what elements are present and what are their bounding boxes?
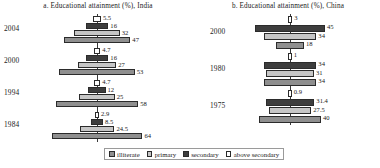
bar-value-label: 45 — [327, 24, 334, 31]
bar-value-label: 16 — [110, 23, 117, 30]
bar-primary — [79, 94, 115, 100]
bar-illiterate — [64, 37, 131, 43]
panel-india-groups: 20045.516324720004.716275319944.71225581… — [0, 14, 196, 142]
chart-panels: a. Educational attainment (%), India 200… — [0, 0, 380, 145]
bar-value-label: 0.9 — [294, 89, 302, 96]
bar-value-label: 1 — [294, 52, 297, 59]
bar-row: 1 — [196, 53, 380, 60]
bar-row: 12 — [0, 87, 196, 93]
legend-item-secondary: secondary — [183, 151, 219, 158]
bar-illiterate — [56, 101, 138, 107]
panel-india: a. Educational attainment (%), India 200… — [0, 0, 196, 145]
bar-row: 34 — [196, 62, 380, 69]
bar-row: 58 — [0, 101, 196, 107]
bar-value-label: 31 — [316, 70, 323, 77]
bar-illiterate — [59, 69, 134, 75]
bar-row: 32 — [0, 30, 196, 36]
bar-row: 16 — [0, 23, 196, 29]
plot-area: 4.7122558 — [0, 78, 196, 110]
legend-item-illiterate: illiterate — [109, 151, 140, 158]
bar-illiterate — [264, 79, 317, 86]
plot-area: 0.931.427.540 — [196, 88, 380, 125]
bar-value-label: 16 — [110, 55, 117, 62]
bar-group-china-1980: 19801343134 — [196, 51, 380, 88]
bar-row: 34 — [196, 79, 380, 86]
bar-row: 0.9 — [196, 90, 380, 97]
bars: 1343134 — [196, 53, 380, 87]
bar-secondary — [88, 87, 105, 93]
bar-group-india-2004: 20045.5163247 — [0, 14, 196, 46]
bar-group-china-1975: 19750.931.427.540 — [196, 88, 380, 125]
chart-legend: illiterateprimarysecondaryabove secondar… — [104, 148, 284, 160]
bar-row: 18 — [196, 42, 380, 49]
bar-primary — [264, 33, 317, 40]
bar-row: 53 — [0, 69, 196, 75]
bar-row: 4.7 — [0, 48, 196, 54]
legend-swatch-illiterate — [109, 151, 115, 157]
legend-label: secondary — [191, 151, 219, 158]
bar-row: 3 — [196, 16, 380, 23]
bar-secondary — [255, 25, 325, 32]
bar-above — [288, 16, 293, 23]
bar-group-india-1994: 19944.7122558 — [0, 78, 196, 110]
bar-secondary — [266, 99, 315, 106]
bar-value-label: 27 — [118, 62, 125, 69]
bars: 5.5163247 — [0, 16, 196, 44]
bar-value-label: 8.5 — [105, 119, 113, 126]
bar-above — [94, 48, 101, 54]
bar-primary — [78, 62, 116, 68]
plot-area: 1343134 — [196, 51, 380, 88]
bar-value-label: 34 — [318, 78, 325, 85]
bar-illiterate — [259, 116, 321, 123]
bar-row: 34 — [196, 33, 380, 40]
bar-row: 24.5 — [0, 126, 196, 132]
bar-above — [94, 80, 101, 86]
legend-label: illiterate — [117, 151, 140, 158]
bar-row: 31.4 — [196, 99, 380, 106]
bar-row: 27 — [0, 62, 196, 68]
bar-above — [288, 53, 292, 60]
bar-row: 45 — [196, 25, 380, 32]
bar-row: 27.5 — [196, 107, 380, 114]
bar-value-label: 3 — [294, 15, 297, 22]
plot-area: 5.5163247 — [0, 14, 196, 46]
plot-area: 3453418 — [196, 14, 380, 51]
plot-area: 4.7162753 — [0, 46, 196, 78]
bar-primary — [269, 107, 312, 114]
bar-group-india-1984: 19842.98.524.564 — [0, 110, 196, 142]
bar-value-label: 32 — [122, 30, 129, 37]
bar-value-label: 12 — [108, 87, 115, 94]
bar-row: 8.5 — [0, 119, 196, 125]
bar-group-india-2000: 20004.7162753 — [0, 46, 196, 78]
panel-china: b. Educational attainment (%), China 200… — [196, 0, 380, 145]
legend-swatch-secondary — [183, 151, 189, 157]
bar-secondary — [264, 62, 317, 69]
bar-row: 47 — [0, 37, 196, 43]
panel-china-title: b. Educational attainment (%), China — [196, 2, 380, 10]
bars: 4.7122558 — [0, 80, 196, 108]
bar-value-label: 2.9 — [101, 111, 109, 118]
bar-value-label: 4.7 — [102, 79, 110, 86]
bar-secondary — [91, 119, 103, 125]
bar-secondary — [86, 23, 109, 29]
bar-value-label: 34 — [318, 61, 325, 68]
panel-china-groups: 200034534181980134313419750.931.427.540 — [196, 14, 380, 125]
plot-area: 2.98.524.564 — [0, 110, 196, 142]
bars: 2.98.524.564 — [0, 112, 196, 140]
bar-above — [93, 16, 101, 22]
panel-india-title: a. Educational attainment (%), India — [0, 2, 196, 10]
bar-illiterate — [276, 42, 304, 49]
bars: 3453418 — [196, 16, 380, 50]
bar-row: 5.5 — [0, 16, 196, 22]
bar-value-label: 40 — [323, 115, 330, 122]
bar-group-china-2000: 20003453418 — [196, 14, 380, 51]
legend-item-primary: primary — [147, 151, 177, 158]
bar-primary — [74, 30, 119, 36]
bars: 0.931.427.540 — [196, 90, 380, 124]
bar-value-label: 5.5 — [103, 15, 111, 22]
bar-value-label: 47 — [132, 37, 139, 44]
bar-row: 4.7 — [0, 80, 196, 86]
bar-value-label: 53 — [137, 69, 144, 76]
bars: 4.7162753 — [0, 48, 196, 76]
bar-primary — [266, 70, 314, 77]
